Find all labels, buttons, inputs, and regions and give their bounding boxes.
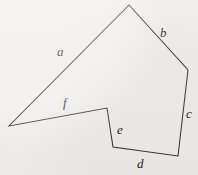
- edge-label-b: b: [160, 26, 167, 39]
- edge-label-e: e: [117, 123, 123, 136]
- polygon-diagram: [0, 0, 198, 175]
- figure-canvas: a b c d e f: [0, 0, 198, 175]
- edge-label-d: d: [137, 157, 144, 170]
- edge-label-c: c: [186, 107, 192, 120]
- edge-label-f: f: [63, 96, 67, 109]
- edge-label-a: a: [57, 45, 64, 58]
